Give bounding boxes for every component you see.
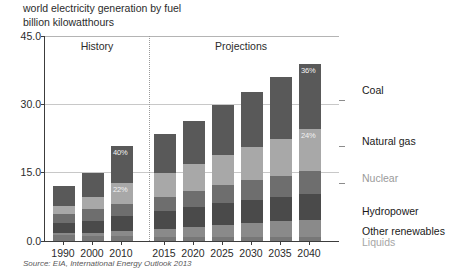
- bar-segment-other_renewables-2030: [241, 223, 263, 237]
- bar-segment-other_renewables-2035: [270, 221, 292, 236]
- bar-2040[interactable]: 36%24%: [299, 64, 321, 241]
- bar-2020[interactable]: [183, 121, 205, 241]
- bar-segment-coal-2010: 40%: [111, 146, 133, 183]
- bar-segment-hydropower-2040: [299, 194, 321, 220]
- legend-item-hydropower[interactable]: Hydropower: [362, 205, 419, 217]
- x-tick-label-2010: 2010: [109, 247, 132, 259]
- bar-segment-other_renewables-2025: [212, 225, 234, 237]
- bar-segment-hydropower-2035: [270, 197, 292, 222]
- history-projection-divider: [149, 36, 150, 241]
- x-tick-label-2030: 2030: [239, 247, 262, 259]
- x-tick-label-2040: 2040: [297, 247, 320, 259]
- y-tick-label-15: 15.0: [3, 166, 41, 178]
- bar-segment-natural_gas-2015: [154, 173, 176, 198]
- x-tick-mark-2010: [121, 241, 122, 245]
- legend-leader-natural-gas: [339, 146, 345, 147]
- source-note: Source: EIA, International Energy Outloo…: [23, 259, 192, 268]
- y-tick-label-45: 45.0: [3, 30, 41, 42]
- bar-2035[interactable]: [270, 77, 292, 241]
- bar-segment-coal-2020: [183, 121, 205, 163]
- bar-segment-nuclear-2035: [270, 176, 292, 197]
- x-tick-label-1990: 1990: [51, 247, 74, 259]
- bar-segment-coal-2030: [241, 92, 263, 147]
- x-tick-mark-2020: [193, 241, 194, 245]
- x-tick-mark-2000: [92, 241, 93, 245]
- bar-2030[interactable]: [241, 92, 263, 241]
- bar-segment-natural_gas-2025: [212, 155, 234, 186]
- bar-segment-other_renewables-2040: [299, 220, 321, 237]
- bar-segment-hydropower-2030: [241, 200, 263, 223]
- bar-segment-nuclear-1990: [53, 214, 75, 223]
- bar-1990[interactable]: [53, 186, 75, 241]
- x-tick-label-2025: 2025: [210, 247, 233, 259]
- bar-segment-natural_gas-2020: [183, 164, 205, 191]
- bar-segment-natural_gas-2030: [241, 147, 263, 181]
- gridline-30: [45, 104, 339, 105]
- bar-segment-hydropower-1990: [53, 223, 75, 233]
- data-label-coal-2040: 36%: [301, 66, 315, 75]
- chart-title: world electricity generation by fuel: [23, 2, 323, 16]
- x-tick-label-2020: 2020: [181, 247, 204, 259]
- chart-subtitle: billion kilowatthours: [23, 16, 323, 30]
- bar-segment-hydropower-2020: [183, 207, 205, 227]
- data-label-natural_gas-2040: 24%: [301, 131, 315, 140]
- projections-label: Projections: [215, 40, 267, 52]
- bar-segment-natural_gas-2035: [270, 139, 292, 176]
- x-tick-label-2015: 2015: [152, 247, 175, 259]
- bar-segment-hydropower-2010: [111, 216, 133, 232]
- data-label-natural_gas-2010: 22%: [113, 185, 127, 194]
- bar-segment-nuclear-2025: [212, 185, 234, 203]
- bar-segment-coal-2035: [270, 77, 292, 139]
- bar-segment-natural_gas-2040: 24%: [299, 129, 321, 172]
- x-tick-label-2035: 2035: [268, 247, 291, 259]
- bar-segment-other_renewables-2015: [154, 229, 176, 237]
- x-tick-mark-2040: [309, 241, 310, 245]
- bar-segment-hydropower-2015: [154, 211, 176, 229]
- bar-segment-natural_gas-2010: 22%: [111, 183, 133, 204]
- chart-figure: world electricity generation by fuel bil…: [0, 0, 459, 278]
- x-tick-mark-2015: [164, 241, 165, 245]
- bar-2010[interactable]: 40%22%: [111, 146, 133, 241]
- bar-segment-natural_gas-2000: [82, 197, 104, 209]
- bar-segment-coal-2015: [154, 134, 176, 173]
- legend-item-nuclear[interactable]: Nuclear: [362, 172, 398, 184]
- y-axis: 45.0 30.0 15.0 0.0: [0, 0, 41, 278]
- chart-title-block: world electricity generation by fuel bil…: [23, 2, 323, 29]
- legend-item-liquids[interactable]: Liquids: [362, 236, 395, 248]
- x-tick-mark-2035: [280, 241, 281, 245]
- bar-segment-nuclear-2000: [82, 209, 104, 220]
- y-tick-label-0: 0.0: [3, 235, 41, 247]
- y-tick-label-30: 30.0: [3, 98, 41, 110]
- legend-item-natural-gas[interactable]: Natural gas: [362, 135, 416, 147]
- bar-2025[interactable]: [212, 105, 234, 241]
- bar-segment-coal-1990: [53, 186, 75, 206]
- bar-segment-nuclear-2015: [154, 197, 176, 211]
- bar-segment-coal-2025: [212, 105, 234, 155]
- bar-segment-nuclear-2040: [299, 171, 321, 193]
- legend-leader-coal: [339, 100, 345, 101]
- x-tick-mark-2025: [222, 241, 223, 245]
- x-tick-mark-2030: [251, 241, 252, 245]
- bar-segment-nuclear-2020: [183, 191, 205, 207]
- x-axis-line: [44, 241, 339, 242]
- bar-segment-coal-2040: 36%: [299, 64, 321, 128]
- bar-segment-natural_gas-1990: [53, 206, 75, 214]
- gridline-45: [45, 36, 339, 37]
- legend-item-coal[interactable]: Coal: [362, 84, 384, 96]
- bar-2000[interactable]: [82, 173, 104, 241]
- bar-segment-nuclear-2030: [241, 180, 263, 200]
- history-label: History: [81, 40, 114, 52]
- bar-segment-nuclear-2010: [111, 204, 133, 216]
- bar-segment-hydropower-2000: [82, 221, 104, 233]
- bar-2015[interactable]: [154, 134, 176, 241]
- data-label-coal-2010: 40%: [113, 148, 127, 157]
- legend-leader-nuclear: [339, 183, 345, 184]
- bar-segment-coal-2000: [82, 173, 104, 197]
- bar-segment-other_renewables-2020: [183, 227, 205, 237]
- x-tick-mark-1990: [63, 241, 64, 245]
- bar-segment-hydropower-2025: [212, 203, 234, 225]
- plot-area: History Projections 40%22%36%24%: [44, 36, 338, 241]
- x-tick-label-2000: 2000: [80, 247, 103, 259]
